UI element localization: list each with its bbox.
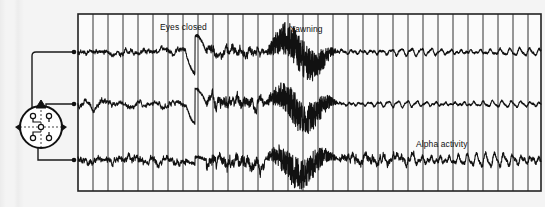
right-ear-marker-icon bbox=[62, 124, 67, 131]
electrode-occipital-right bbox=[46, 135, 51, 140]
eeg-recording-figure: Eyes closed Yawning Alpha activity bbox=[0, 0, 545, 207]
lead-terminal-dot-2 bbox=[72, 102, 77, 107]
eeg-chart bbox=[0, 0, 545, 207]
lead-terminal-dot-1 bbox=[72, 50, 77, 55]
lead-terminal-dot-3 bbox=[72, 158, 77, 163]
electrode-vertex bbox=[38, 124, 43, 129]
electrode-frontal-right bbox=[46, 113, 51, 118]
left-ear-marker-icon bbox=[15, 124, 20, 131]
electrode-occipital-left bbox=[30, 135, 35, 140]
annotation-alpha-activity: Alpha activity bbox=[416, 139, 467, 149]
annotation-yawning: Yawning bbox=[290, 24, 323, 34]
electrode-frontal-left bbox=[30, 113, 35, 118]
scalp-electrode-placement-diagram bbox=[15, 50, 76, 163]
annotation-eyes-closed: Eyes closed bbox=[160, 22, 207, 32]
lead-wire-channel-1 bbox=[32, 52, 74, 112]
